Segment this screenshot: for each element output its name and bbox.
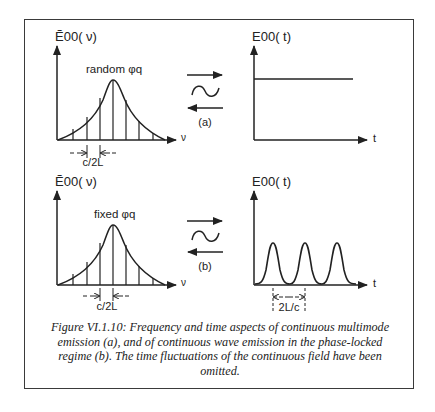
nu-axis-label: ν (181, 132, 186, 143)
panel-b-frequency-plot: Ẽ00( ν) ν fixed φq c/2L (55, 174, 186, 312)
gaussian-envelope-curve (58, 80, 165, 140)
t-axis-label: t (373, 132, 376, 144)
panel-tag: (b) (198, 260, 211, 272)
mode-lines (73, 225, 153, 285)
panel-tag: (a) (198, 116, 211, 128)
tilde-icon (192, 86, 219, 96)
phase-label: fixed φq (94, 208, 135, 220)
phase-label: random φq (86, 63, 142, 75)
gaussian-envelope-curve (58, 225, 165, 285)
panel-a-frequency-plot: Ẽ00( ν) ν random φq c/2L (55, 29, 186, 168)
nu-axis-label: ν (181, 277, 186, 288)
fourier-transform-b: (b) (187, 221, 223, 272)
freq-axis-label: Ẽ00( ν) (55, 29, 97, 44)
spacing-label: c/2L (83, 156, 104, 168)
spacing-label: c/2L (97, 300, 118, 312)
period-label: 2L/c (279, 301, 300, 313)
time-axis-label: E00( t) (252, 174, 291, 189)
time-axis-label: E00( t) (252, 29, 291, 44)
figure-caption: Figure VI.1.10: Frequency and time aspec… (40, 320, 400, 378)
panel-a-time-plot: E00( t) t (252, 29, 376, 144)
pulse-train-curve (255, 243, 356, 284)
panel-b-time-plot: E00( t) t 2L/c (252, 174, 376, 313)
tilde-icon (192, 231, 219, 241)
fourier-transform-a: (a) (187, 75, 223, 128)
mode-lines (73, 80, 153, 140)
t-axis-label: t (373, 277, 376, 289)
freq-axis-label: Ẽ00( ν) (55, 174, 97, 189)
